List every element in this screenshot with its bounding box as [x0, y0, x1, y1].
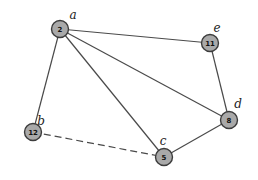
node-value: 2 — [58, 26, 63, 34]
node-d: 8d — [221, 97, 243, 129]
node-label: e — [213, 21, 220, 35]
edges-layer — [33, 29, 229, 157]
node-value: 11 — [205, 40, 215, 48]
node-value: 5 — [162, 154, 167, 162]
node-a: 2a — [52, 8, 77, 38]
node-e: 11e — [202, 21, 221, 52]
node-label: b — [37, 114, 45, 128]
node-label: d — [234, 97, 242, 111]
edge-a-c — [60, 29, 164, 157]
node-value: 8 — [227, 117, 232, 125]
nodes-layer: 2a11e12b8d5c — [25, 8, 243, 166]
node-label: a — [69, 8, 76, 22]
node-value: 12 — [28, 129, 38, 137]
edge-d-c — [164, 120, 229, 157]
edge-b-c — [33, 132, 164, 157]
edge-e-d — [210, 43, 229, 120]
node-label: c — [160, 134, 167, 148]
node-b: 12b — [25, 114, 45, 141]
graph-diagram: 2a11e12b8d5c — [0, 0, 258, 180]
